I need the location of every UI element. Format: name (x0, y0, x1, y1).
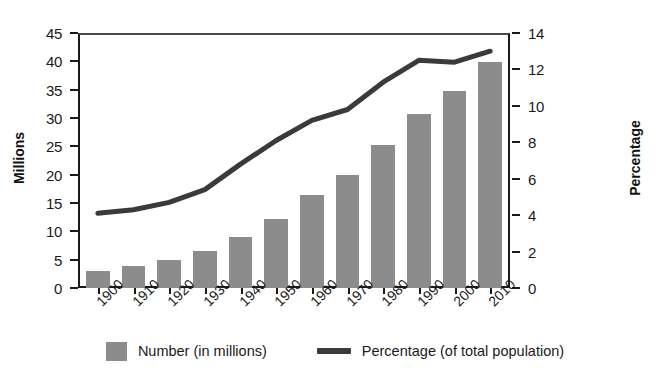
bar-series-layer (80, 35, 508, 288)
y-tick-label-right: 14 (528, 25, 544, 42)
y-tick-mark-left (70, 145, 78, 147)
y-tick-mark-right (512, 32, 520, 34)
y-tick-label-right: 4 (528, 207, 536, 224)
y-tick-label-left: 0 (54, 280, 62, 297)
bar[interactable] (300, 195, 324, 288)
y-tick-mark-right (512, 178, 520, 180)
bar[interactable] (229, 237, 253, 288)
y-tick-mark-left (70, 259, 78, 261)
bar[interactable] (264, 219, 288, 288)
y-tick-mark-right (512, 251, 520, 253)
y-tick-mark-right (512, 105, 520, 107)
legend-label-number: Number (in millions) (138, 343, 267, 359)
y-tick-mark-left (70, 60, 78, 62)
y-tick-label-right: 10 (528, 97, 544, 114)
y-tick-label-left: 5 (54, 251, 62, 268)
y-tick-mark-left (70, 287, 78, 289)
bar[interactable] (478, 62, 502, 288)
y-tick-mark-left (70, 89, 78, 91)
chart-container: 051015202530354045 Millions 02468101214 … (0, 0, 670, 380)
y-tick-mark-left (70, 174, 78, 176)
bar[interactable] (443, 91, 467, 288)
y-tick-label-left: 30 (46, 110, 62, 127)
chart-legend: Number (in millions) Percentage (of tota… (0, 336, 670, 366)
y-tick-mark-right (512, 141, 520, 143)
y-axis-right-title: Percentage (627, 113, 643, 203)
y-tick-label-left: 25 (46, 138, 62, 155)
legend-label-percentage: Percentage (of total population) (362, 343, 564, 359)
y-tick-mark-left (70, 202, 78, 204)
y-tick-label-left: 35 (46, 81, 62, 98)
y-tick-mark-left (70, 32, 78, 34)
y-tick-mark-right (512, 214, 520, 216)
line-swatch-icon (317, 348, 351, 354)
y-tick-label-right: 12 (528, 61, 544, 78)
bar[interactable] (371, 145, 395, 288)
bar-swatch-icon (106, 342, 127, 361)
y-axis-right: 02468101214 (512, 33, 572, 288)
y-tick-label-left: 20 (46, 166, 62, 183)
y-axis-left-title: Millions (11, 113, 27, 203)
legend-item-number[interactable]: Number (in millions) (106, 342, 267, 361)
y-tick-mark-right (512, 68, 520, 70)
legend-item-percentage[interactable]: Percentage (of total population) (317, 343, 564, 359)
bar[interactable] (407, 114, 431, 288)
y-tick-label-right: 8 (528, 134, 536, 151)
y-tick-label-right: 6 (528, 170, 536, 187)
bar[interactable] (193, 251, 217, 288)
y-tick-label-right: 2 (528, 243, 536, 260)
y-tick-mark-left (70, 230, 78, 232)
y-tick-label-left: 40 (46, 53, 62, 70)
y-tick-label-left: 15 (46, 195, 62, 212)
y-tick-label-left: 45 (46, 25, 62, 42)
bar[interactable] (336, 175, 360, 288)
y-tick-label-left: 10 (46, 223, 62, 240)
y-tick-label-right: 0 (528, 280, 536, 297)
y-tick-mark-left (70, 117, 78, 119)
